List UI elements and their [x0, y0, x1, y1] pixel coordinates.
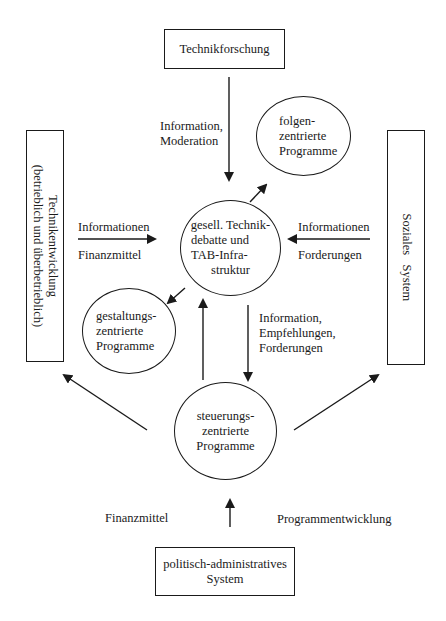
technikforschung-box: Technikforschung — [164, 29, 285, 69]
label-line: Moderation — [160, 134, 223, 149]
technikforschung-edge-label: Information, Moderation — [160, 119, 223, 149]
circle-line: zentrierte — [96, 324, 143, 339]
steuerungszentrierte-programme-circle: steuerungs- zentrierte Programme — [174, 382, 277, 480]
left-informationen-label: Informationen — [78, 220, 150, 235]
bottom-programmentwicklung-label: Programmentwicklung — [277, 512, 392, 527]
soziales-system-label: Soziales System — [400, 213, 414, 301]
technikentwicklung-box: Technikentwicklung (betrieblich und über… — [26, 130, 64, 362]
circle-line: zentrierte — [279, 129, 326, 144]
technikentwicklung-sublabel: (betrieblich und überbetrieblich) — [30, 165, 45, 327]
circle-line: Programme — [196, 439, 254, 454]
right-forderungen-label: Forderungen — [298, 248, 362, 263]
circle-line: Programme — [96, 339, 154, 354]
technikdebatte-tab-infrastruktur-circle: gesell. Technik- debatte und TAB-Infra- … — [180, 200, 281, 296]
diagram-canvas: Technikforschung Technikentwicklung (bet… — [0, 0, 446, 621]
politisch-administrativ-sublabel: System — [207, 572, 244, 587]
technikforschung-label: Technikforschung — [179, 42, 269, 57]
circle-line: gestaltungs- — [96, 309, 156, 324]
label-line: Empfehlungen, — [259, 326, 336, 341]
technikentwicklung-label: Technikentwicklung — [45, 165, 60, 327]
label-line: Information, — [160, 119, 223, 134]
folgenzentrierte-programme-circle: folgen- zentrierte Programme — [256, 96, 351, 176]
politisch-administratives-system-box: politisch-administratives System — [155, 547, 295, 596]
circle-line: debatte und — [181, 233, 249, 248]
circle-line: struktur — [211, 263, 250, 278]
circle-line: folgen- — [279, 114, 315, 129]
soziales-system-text: Soziales System — [384, 194, 429, 301]
circle-line: Programme — [279, 144, 337, 159]
technikentwicklung-text: Technikentwicklung (betrieblich und über… — [30, 165, 60, 327]
right-informationen-label: Informationen — [298, 220, 370, 235]
label-line: Information, — [259, 311, 336, 326]
circle-line: zentrierte — [202, 424, 249, 439]
empfehlungen-edge-label: Information, Empfehlungen, Forderungen — [259, 311, 336, 356]
circle-line: gesell. Technik- — [191, 218, 270, 233]
circle-line: TAB-Infra- — [181, 248, 248, 263]
gestaltungszentrierte-programme-circle: gestaltungs- zentrierte Programme — [82, 288, 176, 374]
bottom-finanzmittel-label: Finanzmittel — [105, 511, 168, 526]
circle-line: steuerungs- — [197, 409, 255, 424]
label-line: Forderungen — [259, 341, 336, 356]
soziales-system-box: Soziales System — [387, 130, 425, 365]
connector-arrows — [0, 0, 446, 621]
left-finanzmittel-label: Finanzmittel — [78, 248, 141, 263]
politisch-administrativ-label: politisch-administratives — [163, 557, 287, 572]
